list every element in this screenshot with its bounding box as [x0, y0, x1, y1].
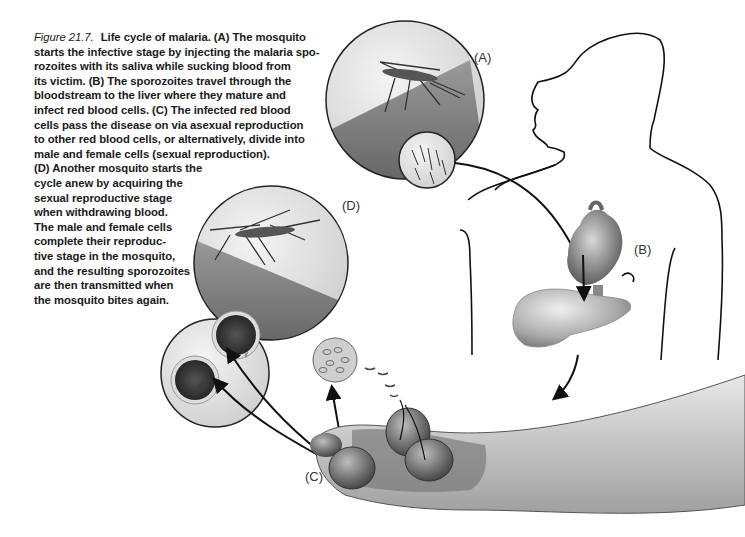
merozoites: [365, 368, 398, 397]
label-b: (B): [634, 242, 651, 257]
label-c: (C): [305, 469, 323, 484]
sporozoites-inset: [399, 132, 455, 188]
female-symbol: ♀: [241, 346, 251, 361]
heart-organ: [567, 203, 622, 298]
liver-organ: [513, 289, 631, 347]
malaria-life-cycle-figure: Figure 21.7.Life cycle of malaria. (A) T…: [0, 0, 745, 537]
diagram-artwork: [0, 0, 745, 537]
gametocytes-inset: [161, 311, 269, 427]
blood-vessel: [316, 375, 745, 513]
label-a: (A): [474, 50, 491, 65]
schizont-cell: [313, 338, 357, 382]
male-symbol: ♂: [196, 378, 206, 393]
label-d: (D): [342, 198, 360, 213]
